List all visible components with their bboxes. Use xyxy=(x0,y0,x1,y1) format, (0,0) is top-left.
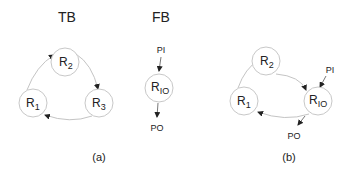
node-r2: R2 xyxy=(51,48,79,76)
diagram-figure: TB R2 R1 R3 FB PI RIO PO (a) xyxy=(0,0,350,178)
edge-b-pi-rio xyxy=(320,76,326,87)
b-output-label: PO xyxy=(287,131,300,141)
edge-r1-r2 xyxy=(27,55,54,90)
fb-output-label: PO xyxy=(150,123,163,133)
b-input-label: PI xyxy=(326,65,335,75)
panel-a: TB R2 R1 R3 xyxy=(19,9,113,120)
node-rio: RIO xyxy=(145,74,173,102)
panel-b: PI PO R2 R1 RIO xyxy=(230,47,334,141)
node-r3: R3 xyxy=(85,89,113,117)
edge-b-r2-rio xyxy=(276,74,306,90)
node-r1: R1 xyxy=(19,89,47,117)
node-b-rio: RIO xyxy=(304,87,332,115)
edge-r2-r3 xyxy=(76,54,98,89)
node-b-r2: R2 xyxy=(252,47,280,75)
edge-rio-po xyxy=(157,103,158,117)
node-b-r1: R1 xyxy=(230,87,258,115)
fb-input-label: PI xyxy=(157,45,166,55)
fb-title: FB xyxy=(152,9,170,25)
tb-title: TB xyxy=(58,9,76,25)
edge-r3-r1 xyxy=(45,115,92,120)
edge-pi-rio xyxy=(159,57,161,71)
panel-a-fb: FB PI RIO PO xyxy=(145,9,173,133)
edge-b-rio-po xyxy=(298,116,305,125)
caption-b: (b) xyxy=(282,151,295,163)
caption-a: (a) xyxy=(92,151,105,163)
edge-b-rio-r1 xyxy=(258,112,309,118)
